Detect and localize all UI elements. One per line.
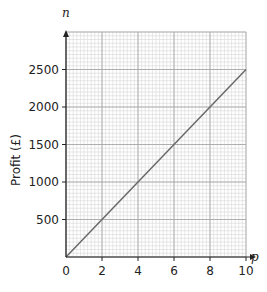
y-axis-title: Profit (£) bbox=[9, 134, 23, 186]
x-tick-label: 4 bbox=[134, 264, 142, 278]
y-axis-arrow-icon bbox=[63, 30, 69, 37]
y-tick-label: 500 bbox=[36, 213, 59, 227]
x-tick-label: 10 bbox=[238, 264, 253, 278]
x-tick-label: 0 bbox=[62, 264, 70, 278]
y-tick-label: 2500 bbox=[28, 63, 59, 77]
y-tick-label: 1500 bbox=[28, 138, 59, 152]
x-axis-variable: p bbox=[251, 250, 259, 264]
y-tick-label: 1000 bbox=[28, 175, 59, 189]
x-tick-label: 2 bbox=[98, 264, 106, 278]
y-axis-variable: n bbox=[62, 6, 70, 20]
x-tick-label: 8 bbox=[206, 264, 214, 278]
y-tick-label: 2000 bbox=[28, 100, 59, 114]
profit-chart: 02468105001000150020002500 n p Profit (£… bbox=[0, 0, 267, 292]
x-tick-label: 6 bbox=[170, 264, 178, 278]
